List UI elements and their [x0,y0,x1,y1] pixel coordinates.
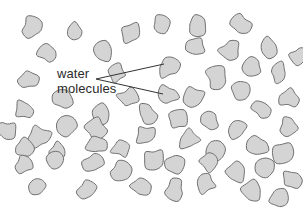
label-molecules: molecules [57,81,117,96]
label-water: water [56,66,90,81]
water-molecule [145,150,164,170]
water-molecule [185,38,204,54]
water-molecule [169,109,188,128]
water-molecule [272,143,293,164]
diagram-canvas: water molecules [0,0,303,212]
water-molecules-diagram: water molecules [0,0,303,212]
water-molecule [190,15,206,37]
water-molecule [0,123,16,140]
